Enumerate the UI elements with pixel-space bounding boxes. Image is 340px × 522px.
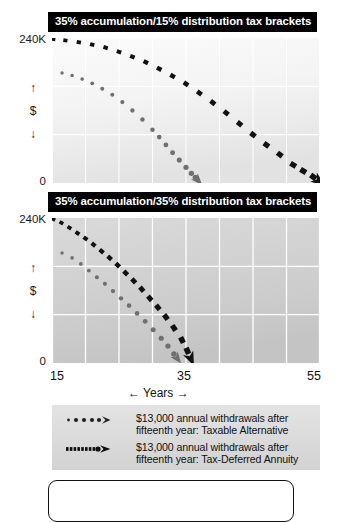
legend-label-taxable-line1: $13,000 annual withdrawals after bbox=[136, 412, 288, 424]
panel-1-ybottom-label: 0 bbox=[0, 176, 46, 188]
legend-label-annuity-line1: $13,000 annual withdrawals after bbox=[136, 441, 298, 453]
xaxis-tick-15: 15 bbox=[50, 370, 64, 383]
panel-1-yaxis-arrow-down-icon: ↓ bbox=[22, 128, 44, 140]
plot-area-1 bbox=[52, 38, 320, 183]
panel-2-yaxis-currency-symbol: $ bbox=[22, 285, 44, 297]
legend-marker-taxable-icon bbox=[52, 412, 136, 425]
legend-label-taxable-line2: fifteenth year: Taxable Alternative bbox=[136, 424, 288, 436]
plot-area-2 bbox=[52, 218, 320, 363]
legend-label-taxable: $13,000 annual withdrawals after fifteen… bbox=[136, 412, 288, 437]
legend-item-taxable: $13,000 annual withdrawals after fifteen… bbox=[52, 412, 320, 437]
plot-svg-1 bbox=[52, 38, 320, 183]
dotted-round-arrow-icon bbox=[66, 415, 114, 425]
panel-1-yaxis-arrow-up-icon: ↑ bbox=[22, 82, 44, 94]
legend-label-annuity-line2: fifteenth year: Tax-Deferred Annuity bbox=[136, 453, 298, 465]
panel-1-ytop-label: 240K bbox=[0, 34, 46, 46]
panel-2-yaxis-arrow-up-icon: ↑ bbox=[22, 262, 44, 274]
legend-item-annuity: $13,000 annual withdrawals after fifteen… bbox=[52, 441, 320, 466]
panel-2-ytop-label: 240K bbox=[0, 214, 46, 226]
legend-label-annuity: $13,000 annual withdrawals after fifteen… bbox=[136, 441, 298, 466]
legend-marker-annuity-icon bbox=[52, 441, 136, 454]
plot-svg-2 bbox=[52, 218, 320, 363]
dashed-square-arrow-icon bbox=[66, 444, 114, 454]
legend: $13,000 annual withdrawals after fifteen… bbox=[52, 405, 320, 470]
xaxis-label: ← Years → bbox=[128, 387, 189, 399]
panel-2-title: 35% accumulation/35% distribution tax br… bbox=[48, 192, 317, 212]
xaxis-tick-55: 55 bbox=[307, 370, 321, 383]
panel-1-title: 35% accumulation/15% distribution tax br… bbox=[48, 12, 317, 32]
panel-1-yaxis-currency-symbol: $ bbox=[22, 105, 44, 117]
panel-2-yaxis-arrow-down-icon: ↓ bbox=[22, 308, 44, 320]
bottom-callout-box bbox=[48, 480, 294, 522]
panel-2-ybottom-label: 0 bbox=[0, 356, 46, 368]
xaxis-tick-35: 35 bbox=[177, 370, 191, 383]
